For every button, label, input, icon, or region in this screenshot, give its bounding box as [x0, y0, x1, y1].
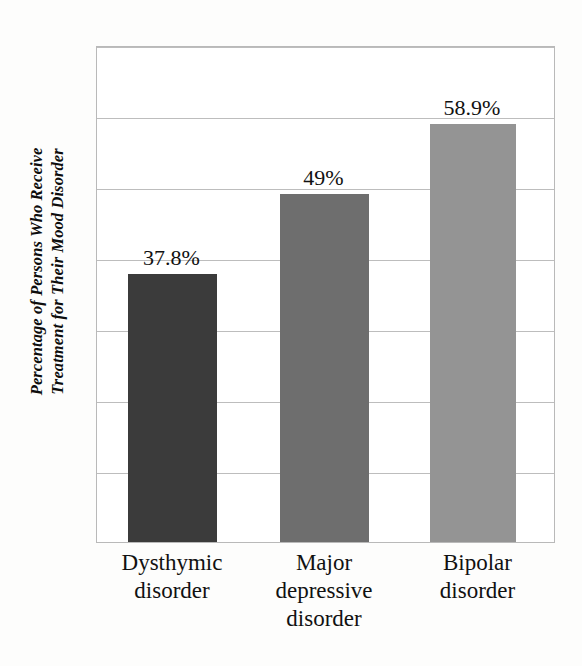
category-label-3: Bipolardisorder: [400, 549, 555, 605]
bar-value-label-3: 58.9%: [429, 95, 515, 121]
y-axis-title-line-2: Treatment for Their Mood Disorder: [48, 148, 69, 396]
category-label-2: Majordepressivedisorder: [248, 549, 400, 633]
category-label-line: disorder: [248, 605, 400, 633]
chart-page: Percentage of Persons Who Receive Treatm…: [0, 0, 582, 666]
gridline: [97, 47, 554, 48]
bar-value-label-1: 37.8%: [127, 245, 216, 271]
y-axis-title: Percentage of Persons Who Receive Treatm…: [0, 0, 96, 543]
y-axis-title-text: Percentage of Persons Who Receive Treatm…: [27, 148, 70, 396]
category-label-1: Dysthymicdisorder: [96, 549, 248, 605]
category-label-line: Dysthymic: [96, 549, 248, 577]
y-axis-title-line-1: Percentage of Persons Who Receive: [28, 148, 47, 396]
bar-2[interactable]: [280, 194, 369, 542]
category-label-line: depressive: [248, 577, 400, 605]
bar-3[interactable]: [430, 124, 516, 542]
category-label-line: Bipolar: [400, 549, 555, 577]
category-label-line: Major: [248, 549, 400, 577]
category-label-line: disorder: [400, 577, 555, 605]
bar-value-label-2: 49%: [279, 165, 368, 191]
category-label-line: disorder: [96, 577, 248, 605]
bar-1[interactable]: [128, 274, 217, 542]
